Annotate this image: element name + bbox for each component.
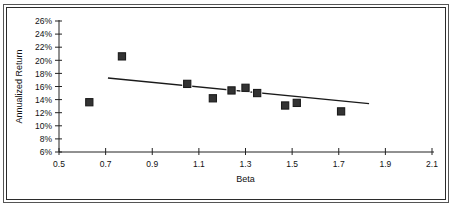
x-axis-tick-label: 0.7: [100, 159, 112, 169]
y-axis-tick-label: 20%: [35, 56, 52, 66]
marker-square: [209, 95, 216, 102]
y-axis-tick-label: 18%: [35, 69, 52, 79]
data-point-marker: [183, 79, 192, 88]
marker-square: [254, 89, 261, 96]
y-axis-tick-label: 14%: [35, 95, 52, 105]
data-point-marker: [117, 52, 126, 61]
y-axis-tick-label: 16%: [35, 82, 52, 92]
trendline-segment: [108, 78, 369, 104]
x-axis-tick-label: 1.7: [333, 159, 345, 169]
x-axis-tick-label: 1.1: [193, 159, 205, 169]
y-axis-tick-label: 12%: [35, 108, 52, 118]
x-axis-tick-label: 1.9: [379, 159, 391, 169]
marker-square: [337, 108, 344, 115]
x-axis-tick-label: 2.1: [426, 159, 438, 169]
data-point-marker: [252, 88, 261, 97]
marker-square: [86, 99, 93, 106]
y-axis-tick-label: 8%: [40, 134, 53, 144]
chart-figure: 6%8%10%12%14%16%18%20%22%24%26% 0.50.70.…: [0, 0, 452, 207]
data-point-marker: [336, 107, 345, 116]
data-point-marker: [227, 86, 236, 95]
x-axis-tick-label: 1.3: [240, 159, 252, 169]
marker-square: [242, 84, 249, 91]
marker-square: [184, 80, 191, 87]
x-axis-tick-label: 0.5: [53, 159, 65, 169]
data-point-marker: [292, 98, 301, 107]
y-axis-tick-label: 10%: [35, 121, 52, 131]
marker-square: [293, 99, 300, 106]
marker-square: [118, 53, 125, 60]
scatter-plot: 6%8%10%12%14%16%18%20%22%24%26% 0.50.70.…: [0, 0, 452, 207]
data-point-marker: [85, 98, 94, 107]
trendline: [108, 78, 369, 104]
data-points: [85, 52, 346, 116]
data-point-marker: [208, 94, 217, 103]
x-axis-tick-label: 1.5: [286, 159, 298, 169]
y-axis-tick-label: 22%: [35, 42, 52, 52]
x-axis-tick-label: 0.9: [146, 159, 158, 169]
y-axis-tick-label: 6%: [40, 147, 53, 157]
y-axis-tick-label: 24%: [35, 29, 52, 39]
x-axis-title: Beta: [236, 174, 255, 184]
y-axis: 6%8%10%12%14%16%18%20%22%24%26%: [35, 16, 62, 157]
data-point-marker: [241, 83, 250, 92]
marker-square: [228, 87, 235, 94]
x-axis: 0.50.70.91.11.31.51.71.92.1: [53, 148, 438, 169]
y-axis-tick-label: 26%: [35, 16, 52, 26]
marker-square: [282, 102, 289, 109]
y-axis-title: Annualized Return: [14, 49, 24, 123]
data-point-marker: [280, 101, 289, 110]
